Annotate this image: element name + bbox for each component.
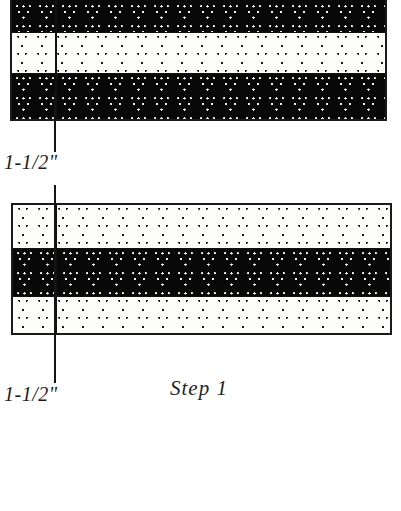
extension-line-upper [54,92,56,152]
ply-light-upper-2 [12,32,385,73]
lower-laminated-board [11,203,392,335]
dimension-label-lower: 1-1/2" [4,384,58,404]
ply-light-lower-1 [13,205,390,248]
extension-line-mid [54,185,56,223]
upper-laminated-board [10,0,387,121]
ply-dark-upper-3 [12,73,385,121]
step-caption: Step 1 [170,378,228,399]
ply-dark-lower-2 [13,248,390,296]
ply-dark-upper-1 [12,0,385,32]
figure-canvas: 1-1/2" 1-1/2" Step 1 [0,0,401,511]
dimension-label-upper: 1-1/2" [4,152,58,172]
ply-light-lower-3 [13,296,390,335]
extension-line-lower [54,223,56,383]
